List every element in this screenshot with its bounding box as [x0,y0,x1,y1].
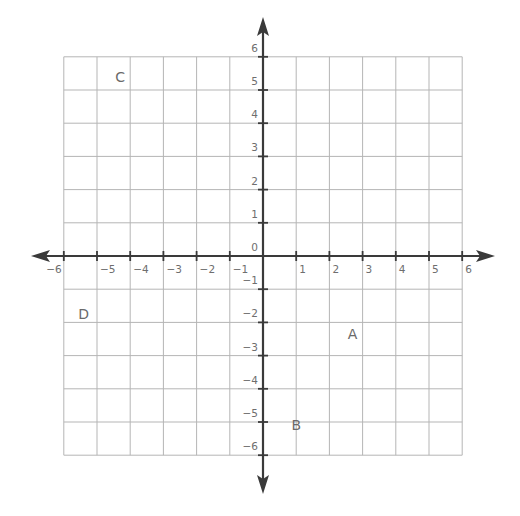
point-label-a: A [348,326,358,342]
x-tick-label: −4 [133,263,149,275]
y-tick-label: 6 [251,42,258,54]
x-tick-label: −5 [100,263,115,275]
x-tick-label: 2 [332,263,339,275]
x-tick-label: −1 [233,263,248,275]
x-tick-label: 3 [366,263,373,275]
x-tick-label: 1 [299,263,306,275]
y-tick-label: 1 [251,208,258,220]
y-tick-label: −6 [243,440,259,452]
x-tick-label: −2 [200,263,215,275]
point-label-d: D [78,306,89,322]
x-tick-label: 4 [399,263,406,275]
y-tick-label: −2 [243,307,258,319]
y-tick-label: −3 [243,341,258,353]
x-tick-label: 5 [432,263,439,275]
x-tick-label: −6 [46,263,62,275]
y-tick-label: 0 [251,241,258,253]
x-axis-tick-labels: −6−5−4−3−2−1123456 [46,263,472,275]
x-tick-label: −3 [166,263,181,275]
y-tick-label: 4 [251,108,258,120]
y-tick-label: −1 [243,274,258,286]
y-tick-label: −5 [243,407,258,419]
x-tick-label: 6 [465,263,472,275]
y-tick-label: 3 [251,141,258,153]
y-axis-tick-labels: 6543210−1−2−3−4−5−6 [243,42,259,452]
coordinate-plane: −6−5−4−3−2−1123456 6543210−1−2−3−4−5−6 A… [0,0,520,516]
y-tick-label: 5 [251,75,258,87]
y-tick-label: 2 [251,175,258,187]
point-label-c: C [115,69,125,85]
point-label-b: B [291,417,301,433]
y-tick-label: −4 [243,374,259,386]
